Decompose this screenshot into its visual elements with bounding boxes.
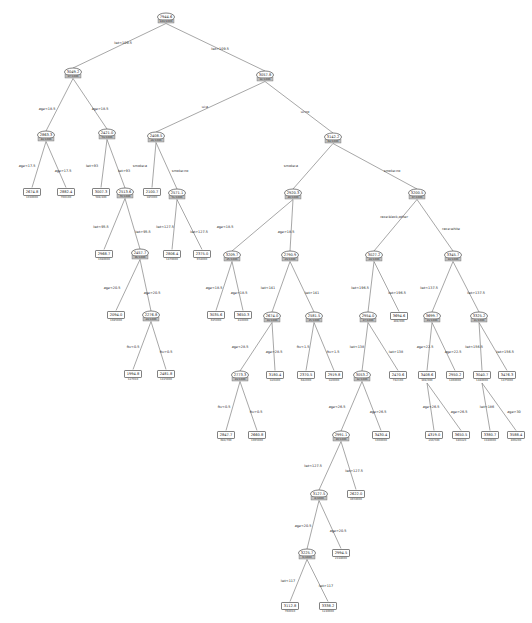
leaf-subtext: 908/000: [421, 378, 432, 382]
tree-internal-node[interactable]: 3142.264/1000: [325, 133, 342, 143]
edge-split-label: lwt>117: [319, 584, 333, 588]
tree-internal-node[interactable]: 3053.212/1000: [354, 371, 371, 381]
leaf-value: 2968.7: [98, 252, 111, 256]
edge-split-label: age>18.5: [231, 291, 248, 295]
tree-internal-node[interactable]: 2920.340/1000: [285, 189, 302, 199]
decision-tree-figure: lwt<109.5lwt>109.5age<18.5age>18.5ui:aui…: [0, 0, 532, 623]
edge-split-label: ftv>1.5: [327, 350, 340, 354]
leaf-value: 4319.0: [428, 433, 441, 437]
leaf-subtext: 1240000: [322, 609, 334, 613]
tree-internal-node[interactable]: 3027.224/1000: [366, 251, 383, 261]
tree-leaf-node[interactable]: 3040.71480000: [474, 372, 491, 382]
tree-leaf-node[interactable]: 2622.09650000: [348, 491, 365, 501]
leaf-value: 3650.5: [455, 433, 468, 437]
tree-internal-node[interactable]: 3325.211/1000: [471, 312, 488, 322]
tree-internal-node[interactable]: 3127.58/1000: [311, 490, 328, 500]
tree-leaf-node[interactable]: 2950.21460000: [447, 372, 464, 382]
tree-leaf-node[interactable]: 2094.01085000: [108, 312, 125, 322]
leaf-subtext: 2198000: [335, 556, 347, 560]
edge-split-label: ftv<1.5: [297, 345, 310, 349]
tree-leaf-node[interactable]: 3430.41000000: [373, 432, 390, 442]
tree-leaf-node[interactable]: 3380.71940000: [482, 432, 499, 442]
leaf-value: 2882.4: [60, 190, 73, 194]
leaf-value: 3694.6: [393, 314, 406, 318]
tree-internal-node[interactable]: 3049.297/1000: [65, 68, 82, 78]
leaf-subtext: 1030000: [26, 195, 38, 199]
leaf-value: 2470.6: [392, 373, 405, 377]
node-subtext: 189/1000: [160, 19, 173, 23]
tree-internal-node[interactable]: 3225.76/1000: [299, 549, 316, 559]
tree-internal-node[interactable]: 3200.537/1000: [409, 189, 426, 199]
edge-split-label: age<26.5: [329, 405, 346, 409]
node-subtext: 70/1000: [119, 194, 130, 198]
leaf-value: 2919.8: [328, 373, 341, 377]
leaf-subtext: 1940000: [484, 438, 496, 442]
tree-leaf-node[interactable]: 2481.81415000: [158, 371, 175, 381]
tree-internal-node[interactable]: 2457.736/1000: [132, 249, 149, 259]
tree-internal-node[interactable]: 3345.719/1000: [445, 251, 462, 261]
edge-split-label: lwt<95.5: [93, 225, 108, 229]
tree-leaf-node[interactable]: 2674.81030000: [24, 189, 41, 199]
edge-split-label: lwt<141: [261, 286, 275, 290]
leaf-subtext: 810000: [238, 318, 249, 322]
tree-internal-node[interactable]: 2674.019/1000: [264, 312, 281, 322]
tree-internal-node[interactable]: 2991.110/1000: [333, 431, 350, 441]
leaf-value: 2806.4: [166, 252, 179, 256]
tree-internal-node[interactable]: 2581.515/1000: [306, 312, 323, 322]
tree-internal-node[interactable]: 7944.6189/1000: [158, 13, 175, 23]
tree-internal-node[interactable]: 2276.824/1000: [143, 311, 160, 321]
edge-split-label: age<17.5: [19, 164, 36, 168]
tree-internal-node[interactable]: 2421.053/1000: [99, 129, 116, 139]
leaf-subtext: 127010: [128, 377, 139, 381]
edge-split-label: age>26.5: [451, 410, 468, 414]
edge-split-label: ui:no: [301, 110, 309, 114]
tree-internal-node[interactable]: 2408.528/1000: [148, 132, 165, 142]
node-subtext: 23/1000: [284, 257, 295, 261]
node-subtext: 40/1000: [287, 195, 298, 199]
tree-internal-node[interactable]: 3209.725/1000: [224, 251, 241, 261]
edge-split-label: lwt<109.5: [114, 41, 132, 45]
leaf-subtext: 806200: [511, 438, 522, 442]
edge-split-label: ftv<0.5: [218, 405, 231, 409]
node-subtext: 13/1000: [426, 318, 437, 322]
tree-leaf-node[interactable]: 2994.52198000: [333, 550, 350, 560]
leaf-value: 2994.5: [335, 551, 348, 555]
leaf-value: 3180.4: [269, 373, 282, 377]
tree-leaf-node[interactable]: 3338.21240000: [320, 603, 337, 613]
tree-internal-node[interactable]: 2513.670/1000: [117, 188, 134, 198]
edge-split-label: age>18.5: [92, 107, 109, 111]
edge-split-label: lwt>93: [118, 169, 130, 173]
leaf-value: 1994.8: [127, 372, 140, 376]
node-subtext: 17/1000: [362, 318, 373, 322]
leaf-value: 2950.2: [449, 373, 462, 377]
tree-leaf-node[interactable]: 2968.71080000: [96, 251, 113, 261]
edge-split-label: age<22.5: [417, 345, 434, 349]
tree-internal-node[interactable]: 2790.923/1000: [282, 251, 299, 261]
tree-internal-node[interactable]: 3057.892/1000: [257, 71, 274, 81]
tree-internal-node[interactable]: 2863.344/1000: [38, 131, 55, 141]
edge-split-label: lwt>127.5: [345, 469, 363, 473]
leaf-value: 2660.8: [251, 433, 264, 437]
leaf-value: 3430.4: [375, 433, 388, 437]
leaf-subtext: 760010: [285, 609, 296, 613]
tree-internal-node[interactable]: 2571.151/1000: [169, 189, 186, 199]
node-subtext: 10/1000: [335, 437, 346, 441]
node-subtext: 13/1000: [234, 377, 245, 381]
edge-split-label: lwt<138: [350, 345, 364, 349]
leaf-value: 3408.6: [421, 373, 434, 377]
leaf-subtext: 508/400: [95, 195, 106, 199]
tree-internal-node[interactable]: 3699.713/1000: [424, 312, 441, 322]
edge-split-label: age>18.5: [278, 230, 295, 234]
edge-split-label: age<20.5: [295, 524, 312, 528]
node-subtext: 19/1000: [266, 318, 277, 322]
leaf-value: 2370.5: [300, 373, 313, 377]
tree-internal-node[interactable]: 2773.313/1000: [232, 371, 249, 381]
tree-internal-node[interactable]: 2954.017/1000: [360, 312, 377, 322]
tree-leaf-node[interactable]: 2660.81065000: [249, 432, 266, 442]
tree-leaf-node[interactable]: 2806.41470000: [164, 251, 181, 261]
node-subtext: 44/1000: [40, 137, 51, 141]
edge-split-label: age>30: [507, 410, 520, 414]
tree-leaf-node[interactable]: 3476.31475000: [499, 372, 516, 382]
node-subtext: 97/1000: [67, 74, 78, 78]
leaf-value: 3380.7: [484, 433, 497, 437]
